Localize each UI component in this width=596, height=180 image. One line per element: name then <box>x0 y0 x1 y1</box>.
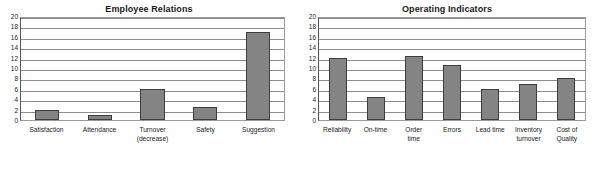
y-tick-label: 8 <box>14 76 18 82</box>
y-tick-label: 16 <box>309 35 316 41</box>
y-tick-label: 4 <box>14 97 18 103</box>
x-tick-label: Turnover (decrease) <box>126 123 179 157</box>
bar-slot <box>319 18 357 120</box>
bar-series <box>21 18 284 120</box>
y-tick-label: 2 <box>14 108 18 114</box>
x-tick-label: Satisfaction <box>20 123 73 157</box>
bar <box>481 89 498 120</box>
charts-container: Employee Relations 20181614121086420 Sat… <box>0 0 596 180</box>
y-tick-label: 16 <box>11 35 18 41</box>
bar-slot <box>179 18 232 120</box>
bar-slot <box>231 18 284 120</box>
plot-area-wrapper: 20181614121086420 ReliabilityOn-timeOrde… <box>298 17 596 137</box>
bar <box>367 97 384 120</box>
bar-series <box>319 18 585 120</box>
bar-slot <box>126 18 179 120</box>
y-tick-label: 0 <box>14 118 18 124</box>
x-axis-labels: SatisfactionAttendanceTurnover (decrease… <box>20 123 285 157</box>
bar-slot <box>547 18 585 120</box>
bar-slot <box>21 18 74 120</box>
y-tick-label: 10 <box>11 66 18 72</box>
bar <box>519 84 536 120</box>
bar-slot <box>395 18 433 120</box>
y-tick-label: 2 <box>312 108 316 114</box>
bar <box>405 56 422 120</box>
y-tick-label: 20 <box>309 14 316 20</box>
bar <box>88 115 112 120</box>
bar-slot <box>509 18 547 120</box>
y-tick-label: 8 <box>312 76 316 82</box>
plot-area <box>20 17 285 121</box>
bar-slot <box>433 18 471 120</box>
x-axis-labels: ReliabilityOn-timeOrder timeErrorsLead t… <box>318 123 586 157</box>
chart-panel-employee-relations: Employee Relations 20181614121086420 Sat… <box>0 0 298 180</box>
x-tick-label: Inventory turnover <box>509 123 547 157</box>
bar <box>443 65 460 120</box>
bar <box>557 78 574 120</box>
x-tick-label: Errors <box>433 123 471 157</box>
chart-title: Employee Relations <box>0 0 298 17</box>
bar <box>35 110 59 120</box>
x-tick-label: Reliability <box>318 123 356 157</box>
y-tick-label: 6 <box>14 87 18 93</box>
x-tick-label: Attendance <box>73 123 126 157</box>
x-tick-label: Lead time <box>471 123 509 157</box>
plot-area-wrapper: 20181614121086420 SatisfactionAttendance… <box>0 17 298 137</box>
chart-title: Operating Indicators <box>298 0 596 17</box>
y-tick-label: 14 <box>11 45 18 51</box>
bar-slot <box>74 18 127 120</box>
x-tick-label: Cost of Quality <box>548 123 586 157</box>
bar <box>140 89 164 120</box>
y-tick-label: 12 <box>309 56 316 62</box>
y-tick-label: 10 <box>309 66 316 72</box>
y-tick-label: 18 <box>309 24 316 30</box>
chart-panel-operating-indicators: Operating Indicators 20181614121086420 R… <box>298 0 596 180</box>
y-tick-label: 14 <box>309 45 316 51</box>
bar-slot <box>471 18 509 120</box>
y-tick-label: 0 <box>312 118 316 124</box>
y-axis-ticks: 20181614121086420 <box>4 17 18 121</box>
x-tick-label: Suggestion <box>232 123 285 157</box>
y-tick-label: 4 <box>312 97 316 103</box>
x-tick-label: Order time <box>395 123 433 157</box>
bar <box>329 58 346 120</box>
y-axis-ticks: 20181614121086420 <box>302 17 316 121</box>
bar <box>193 107 217 120</box>
y-tick-label: 6 <box>312 87 316 93</box>
y-tick-label: 12 <box>11 56 18 62</box>
plot-area <box>318 17 586 121</box>
bar <box>246 32 270 120</box>
x-tick-label: Safety <box>179 123 232 157</box>
bar-slot <box>357 18 395 120</box>
y-tick-label: 20 <box>11 14 18 20</box>
y-tick-label: 18 <box>11 24 18 30</box>
x-tick-label: On-time <box>356 123 394 157</box>
